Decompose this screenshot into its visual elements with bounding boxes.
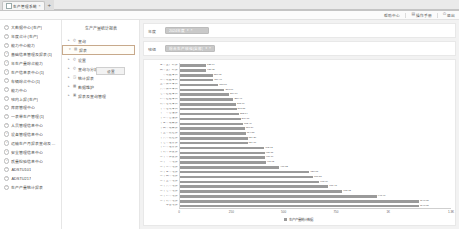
- chevron-icon[interactable]: ▾: [69, 48, 72, 51]
- bar-row[interactable]: 310.39: [180, 127, 451, 130]
- bar[interactable]: [180, 181, 319, 184]
- clear-icon[interactable]: ×: [191, 29, 193, 32]
- bar-row[interactable]: 637.88: [180, 175, 451, 178]
- bar[interactable]: [180, 176, 313, 179]
- clear-icon[interactable]: ×: [209, 47, 211, 50]
- bar-row[interactable]: 405.75: [180, 151, 451, 154]
- bar-row[interactable]: 324.06: [180, 142, 451, 145]
- sidebar-item-14[interactable]: +安全管理信息中心: [0, 147, 61, 156]
- bar[interactable]: [180, 161, 266, 164]
- bar[interactable]: [180, 84, 218, 87]
- chevron-icon[interactable]: ▸: [68, 67, 71, 70]
- tree-node-1[interactable]: ▾▤报表: [62, 45, 135, 55]
- sidebar-item-11[interactable]: +人员管理信息中心: [0, 121, 61, 130]
- bar-row[interactable]: 271.58: [180, 108, 451, 111]
- bar[interactable]: [180, 103, 236, 106]
- sidebar-item-0[interactable]: +大数据中心(生产): [0, 23, 61, 32]
- bar[interactable]: [180, 123, 243, 126]
- bar-row[interactable]: 125.04: [180, 64, 451, 67]
- new-tab-button[interactable]: +: [45, 1, 55, 10]
- bar-row[interactable]: 778.72: [180, 190, 451, 193]
- bar[interactable]: [180, 185, 328, 188]
- sidebar-item-15[interactable]: +质量检验信息中心: [0, 156, 61, 165]
- sidebar-item-13[interactable]: +运输生产月报表查询及管理: [0, 139, 61, 148]
- bar[interactable]: [180, 93, 229, 96]
- year-select[interactable]: 2024年度 ▾ ×: [165, 27, 209, 34]
- sidebar-item-17[interactable]: +ADSTU217: [0, 174, 61, 183]
- bar[interactable]: [180, 142, 248, 145]
- bar[interactable]: [180, 64, 206, 67]
- sidebar-item-8[interactable]: +班内上报(生产): [0, 94, 61, 103]
- bar-row[interactable]: 476.52: [180, 166, 451, 169]
- top-bar-item-manual[interactable]: ▤ 操作手册: [411, 13, 432, 18]
- bar[interactable]: [180, 190, 342, 193]
- bar[interactable]: [180, 69, 206, 72]
- sidebar-item-9[interactable]: +库房管理中心: [0, 103, 61, 112]
- sidebar-item-7[interactable]: +能力中心: [0, 85, 61, 94]
- bar-row[interactable]: 302.46: [180, 122, 451, 125]
- tree-node-5[interactable]: ▸▦数据维护: [62, 82, 139, 91]
- bar-row[interactable]: 234.79: [180, 93, 451, 96]
- bar[interactable]: [180, 79, 213, 82]
- bar-row[interactable]: 1146.05: [180, 200, 451, 203]
- bar-row[interactable]: 406.79: [180, 156, 451, 159]
- bar[interactable]: [180, 74, 213, 77]
- bar[interactable]: [180, 205, 419, 208]
- bar-row[interactable]: 256.47: [180, 98, 451, 101]
- sidebar-item-16[interactable]: +ADSTU101: [0, 165, 61, 174]
- bar-row[interactable]: 159.40: [180, 79, 451, 82]
- tree-node-0[interactable]: ▸◴查询: [62, 36, 139, 45]
- top-bar-item-logout[interactable]: ⏻ 退出: [443, 13, 455, 18]
- bar-row[interactable]: 711.45: [180, 185, 451, 188]
- chevron-icon[interactable]: ▸: [68, 85, 71, 88]
- sidebar-item-10[interactable]: +一表单生产管理(1): [0, 112, 61, 121]
- bar[interactable]: [180, 166, 279, 169]
- bar-row[interactable]: 156.72: [180, 74, 451, 77]
- bar[interactable]: [180, 137, 248, 140]
- bar-row[interactable]: 668.09: [180, 180, 451, 183]
- bar-row[interactable]: 402.92: [180, 146, 451, 149]
- bar-row[interactable]: 290.73: [180, 117, 451, 120]
- bar[interactable]: [180, 108, 237, 111]
- chevron-icon[interactable]: ▸: [68, 94, 71, 97]
- bar-row[interactable]: 620.75: [180, 171, 451, 174]
- tree-node-6[interactable]: ▸▣报表及查询管理: [62, 91, 139, 100]
- sidebar-item-12[interactable]: +设备管理信息中心: [0, 130, 61, 139]
- sidebar-item-18[interactable]: +生产产量统计报表: [0, 183, 61, 192]
- bar[interactable]: [180, 127, 245, 130]
- bar-row[interactable]: 213.06: [180, 88, 451, 91]
- bar[interactable]: [180, 156, 265, 159]
- bar-row[interactable]: 183.06: [180, 83, 451, 86]
- bar-row[interactable]: 282.74: [180, 112, 451, 115]
- sidebar-item-3[interactable]: +基础信息管理及报表(1): [0, 50, 61, 59]
- bar[interactable]: [180, 152, 265, 155]
- chevron-icon[interactable]: ▸: [68, 58, 71, 61]
- bar-row[interactable]: 324.26: [180, 137, 451, 140]
- bar[interactable]: [180, 200, 419, 203]
- bar-row[interactable]: 943.97: [180, 195, 451, 198]
- bar[interactable]: [180, 132, 246, 135]
- bar[interactable]: [180, 171, 309, 174]
- bar[interactable]: [180, 113, 239, 116]
- bar[interactable]: [180, 195, 377, 198]
- bar-row[interactable]: 268.69: [180, 103, 451, 106]
- close-icon[interactable]: ×: [39, 4, 41, 8]
- sidebar-item-2[interactable]: +能力中心能力: [0, 41, 61, 50]
- bar[interactable]: [180, 147, 264, 150]
- tree-context-button[interactable]: 设置: [96, 67, 125, 75]
- top-bar-item-help[interactable]: 帮助中心: [384, 13, 400, 18]
- chevron-icon[interactable]: ▸: [68, 39, 71, 42]
- bar-row[interactable]: 314.85: [180, 132, 451, 135]
- sidebar-item-6[interactable]: +车辆综合中心(1): [0, 76, 61, 85]
- chevron-icon[interactable]: ▸: [68, 76, 71, 79]
- tree-node-2[interactable]: ▸◴设置: [62, 55, 139, 64]
- bar[interactable]: [180, 98, 233, 101]
- sidebar-item-1[interactable]: +年度合计(生产): [0, 32, 61, 41]
- team-select[interactable]: 综合生产班组(全部) ▾ ×: [165, 45, 215, 52]
- sidebar-item-4[interactable]: +年生产量综合能力: [0, 59, 61, 68]
- browser-tab[interactable]: 生产管理系统 ×: [2, 1, 45, 10]
- bar-row[interactable]: 126.29: [180, 69, 451, 72]
- bar[interactable]: [180, 89, 224, 92]
- sidebar-item-5[interactable]: +生产信息表中心(1): [0, 67, 61, 76]
- bar[interactable]: [180, 118, 241, 121]
